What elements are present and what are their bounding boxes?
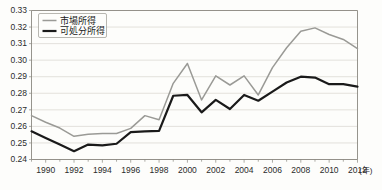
x-tick-label: 2008 [291,165,310,175]
x-tick-label: 2010 [320,165,339,175]
legend-label-1: 市場所得 [60,15,96,26]
y-tick-label: 0.25 [10,138,27,148]
x-tick-label: 1990 [36,165,55,175]
x-tick-label: 2002 [206,165,225,175]
x-tick-label: 2004 [235,165,254,175]
series-line-1 [32,28,358,136]
x-axis-tick-labels: 1990199219941996199820002002200420062008… [36,165,367,175]
y-tick-label: 0.32 [10,22,27,32]
y-axis-tick-labels: 0.240.250.260.270.280.290.300.310.320.33 [10,5,27,164]
series-line-2 [32,77,358,152]
data-series [32,28,358,151]
line-chart-container: 0.240.250.260.270.280.290.300.310.320.33… [0,0,382,190]
y-tick-label: 0.27 [10,105,27,115]
chart-canvas: 0.240.250.260.270.280.290.300.310.320.33… [0,0,382,190]
legend-label-2: 可処分所得 [60,25,105,36]
x-tick-label: 1994 [93,165,112,175]
y-tick-label: 0.30 [10,55,27,65]
x-tick-label: 1992 [65,165,84,175]
x-tick-label: 2000 [178,165,197,175]
x-axis-unit-label: (年) [359,165,373,175]
y-tick-label: 0.31 [10,38,27,48]
x-axis-tick-marks [32,160,358,163]
y-tick-label: 0.26 [10,121,27,131]
y-tick-label: 0.29 [10,71,27,81]
y-tick-label: 0.24 [10,154,27,164]
x-tick-label: 1998 [150,165,169,175]
x-tick-label: 2006 [263,165,282,175]
y-tick-label: 0.33 [10,5,27,15]
x-tick-label: 1996 [121,165,140,175]
y-tick-label: 0.28 [10,88,27,98]
chart-legend: 市場所得可処分所得 [39,14,107,38]
